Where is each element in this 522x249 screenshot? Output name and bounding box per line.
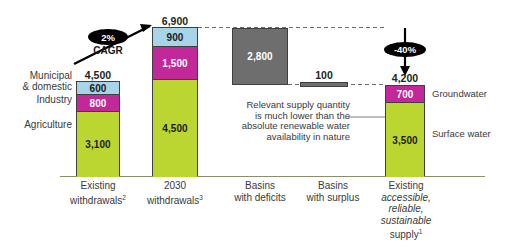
x-label-footnote-3: 3 bbox=[199, 194, 203, 201]
note-line-1: Relevant supply quantity bbox=[212, 100, 350, 111]
segment-basins-deficit-value[interactable]: 2,800 bbox=[233, 29, 287, 84]
x-label2-line-1: 2030 bbox=[133, 180, 217, 192]
bar-existing-withdrawals[interactable]: 600 800 3,100 bbox=[76, 81, 120, 176]
x-label2-line-2: withdrawals bbox=[147, 195, 199, 206]
bar-total-accessible-supply: 4,200 bbox=[385, 72, 425, 84]
x-label-existing-withdrawals: Existing withdrawals2 bbox=[56, 180, 140, 206]
supply-quantity-note: Relevant supply quantity is much lower t… bbox=[212, 100, 350, 142]
cagr-arrow-head bbox=[140, 24, 152, 32]
x-label-2030-withdrawals: 2030 withdrawals3 bbox=[133, 180, 217, 206]
segment-industry-2[interactable]: 1,500 bbox=[153, 47, 197, 80]
segment-municipal-domestic-1[interactable]: 600 bbox=[77, 82, 119, 95]
bar-total-existing-withdrawals: 4,500 bbox=[76, 69, 120, 81]
label-municipal: Municipal bbox=[6, 70, 72, 81]
cagr-label: CAGR bbox=[88, 45, 128, 56]
bar-total-basins-with-surplus: 100 bbox=[296, 69, 352, 81]
segment-agriculture-1[interactable]: 3,100 bbox=[77, 112, 119, 177]
cagr-value: 2% bbox=[101, 32, 115, 43]
x-label5-line-4: sustainable bbox=[368, 215, 444, 227]
segment-surface-water[interactable]: 3,500 bbox=[386, 103, 424, 177]
decline-badge: -40% bbox=[384, 42, 426, 57]
bar-basins-with-surplus[interactable] bbox=[300, 82, 348, 87]
segment-municipal-domestic-2[interactable]: 900 bbox=[153, 28, 197, 47]
bar-total-2030-withdrawals: 6,900 bbox=[152, 15, 198, 27]
bar-2030-withdrawals[interactable]: 900 1,500 4,500 bbox=[152, 27, 198, 176]
x-label-footnote-1: 1 bbox=[419, 228, 423, 235]
decline-value: -40% bbox=[394, 44, 416, 55]
bar-accessible-supply[interactable]: 700 3,500 bbox=[385, 85, 425, 176]
label-domestic: & domestic bbox=[2, 81, 72, 92]
x-label5-line-3: reliable, bbox=[368, 203, 444, 215]
x-label-accessible-supply: Existing accessible, reliable, sustainab… bbox=[368, 180, 444, 241]
chart-canvas: 4,500 600 800 3,100 Municipal & domestic… bbox=[0, 0, 522, 249]
segment-groundwater[interactable]: 700 bbox=[386, 86, 424, 103]
x-label4-line-1: Basins bbox=[290, 180, 376, 192]
bar-basins-with-deficits[interactable]: 2,800 bbox=[232, 28, 288, 85]
x-label-line-1: Existing bbox=[56, 180, 140, 192]
note-line-4: availability in nature bbox=[212, 132, 350, 143]
label-industry: Industry bbox=[6, 94, 72, 105]
x-label-line-2: withdrawals bbox=[70, 195, 122, 206]
note-line-3: absolute renewable water bbox=[212, 121, 350, 132]
segment-agriculture-2[interactable]: 4,500 bbox=[153, 80, 197, 177]
x-label-footnote-2: 2 bbox=[122, 194, 126, 201]
cagr-badge: 2% bbox=[88, 29, 128, 45]
label-surface-water: Surface water bbox=[432, 128, 518, 139]
label-groundwater: Groundwater bbox=[432, 88, 516, 99]
x-label5-line-1: Existing bbox=[368, 180, 444, 192]
label-agriculture: Agriculture bbox=[2, 119, 72, 130]
x-label5-line-2: accessible, bbox=[368, 192, 444, 204]
x-label5-line-5: supply bbox=[390, 229, 419, 240]
x-label-basins-with-surplus: Basins with surplus bbox=[290, 180, 376, 203]
segment-industry-1[interactable]: 800 bbox=[77, 95, 119, 112]
segment-basins-surplus-value[interactable] bbox=[301, 83, 347, 86]
x-label4-line-2: with surplus bbox=[290, 192, 376, 204]
